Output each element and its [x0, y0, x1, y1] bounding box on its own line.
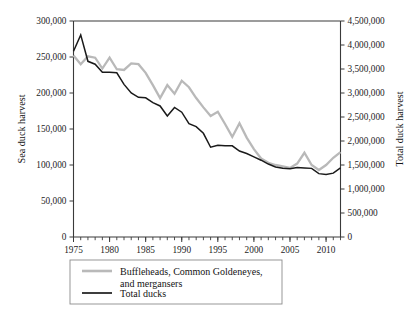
left-axis-title: Sea duck harvest [16, 94, 27, 163]
x-tick-label: 1985 [136, 245, 155, 255]
x-tick-label: 1990 [172, 245, 191, 255]
series-line-total-ducks [74, 35, 341, 175]
right-tick-label: 3,000,000 [348, 88, 386, 98]
data-series-group [74, 35, 341, 175]
right-tick-label: 500,000 [348, 208, 379, 218]
left-tick-label: 300,000 [36, 16, 67, 26]
right-tick-label: 3,500,000 [348, 64, 386, 74]
left-tick-label: 250,000 [36, 52, 67, 62]
x-tick-label: 1975 [64, 245, 83, 255]
left-tick-label: 100,000 [36, 160, 67, 170]
chart-figure: 050,000100,000150,000200,000250,000300,0… [0, 0, 420, 321]
legend-label: Buffleheads, Common Goldeneyes, [120, 266, 263, 277]
plot-axes [74, 21, 341, 237]
right-axis-ticks: 0500,0001,000,0001,500,0002,000,0002,500… [341, 16, 386, 242]
x-tick-label: 1980 [100, 245, 119, 255]
right-tick-label: 4,500,000 [348, 16, 386, 26]
right-tick-label: 0 [348, 232, 353, 242]
right-tick-label: 4,000,000 [348, 40, 386, 50]
right-tick-label: 1,000,000 [348, 184, 386, 194]
right-tick-label: 2,500,000 [348, 112, 386, 122]
left-axis-ticks: 050,000100,000150,000200,000250,000300,0… [36, 16, 73, 242]
x-tick-label: 2005 [281, 245, 300, 255]
right-axis-title: Total duck harvest [394, 91, 405, 166]
left-tick-label: 0 [62, 232, 67, 242]
legend-label: Total ducks [120, 288, 166, 299]
right-tick-label: 1,500,000 [348, 160, 386, 170]
right-tick-label: 2,000,000 [348, 136, 386, 146]
x-tick-label: 2000 [245, 245, 264, 255]
chart-legend: Buffleheads, Common Goldeneyes,and merga… [70, 260, 282, 304]
duck-harvest-line-chart: 050,000100,000150,000200,000250,000300,0… [0, 0, 420, 321]
left-tick-label: 50,000 [41, 196, 67, 206]
x-tick-label: 1995 [209, 245, 228, 255]
left-tick-label: 150,000 [36, 124, 67, 134]
x-tick-label: 2010 [317, 245, 336, 255]
x-axis-ticks: 19751980198519901995200020052010 [64, 237, 336, 255]
left-tick-label: 200,000 [36, 88, 67, 98]
